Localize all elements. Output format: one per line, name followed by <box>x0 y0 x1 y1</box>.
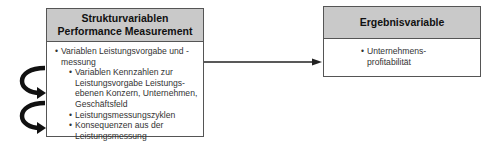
result-variable-box: Ergebnisvariable Unternehmens-profitabil… <box>323 6 481 77</box>
list-item: Unternehmens-profitabilität <box>361 46 447 67</box>
structure-variables-list: Variablen Leistungsvorgabe und -messung … <box>47 42 203 141</box>
result-variable-list: Unternehmens-profitabilität <box>324 39 480 67</box>
feedback-loop-icon-1 <box>22 68 46 99</box>
list-item: Variablen Leistungsvorgabe und -messung <box>55 46 199 67</box>
header-line-1: Strukturvariablen <box>58 12 193 25</box>
arrowhead-icon <box>312 59 322 66</box>
result-variable-header: Ergebnisvariable <box>324 7 480 39</box>
structure-variables-header: Strukturvariablen Performance Measuremen… <box>47 9 203 42</box>
feedback-loop-icon-2 <box>22 103 46 134</box>
structure-variables-box: Strukturvariablen Performance Measuremen… <box>46 8 204 137</box>
header-line-2: Performance Measurement <box>58 25 193 38</box>
list-item: Leistungsmessungszyklen <box>69 110 199 121</box>
list-item: Konsequenzen aus der Leistungsmessung <box>69 120 199 141</box>
list-item: Variablen Kennzahlen zur Leistungsvorgab… <box>69 67 199 109</box>
